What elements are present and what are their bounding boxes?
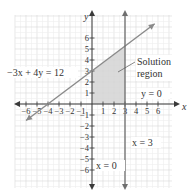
- y-axis-label: y: [83, 11, 89, 22]
- y-tick-label: −3: [80, 132, 89, 142]
- x-axis-label: x: [181, 101, 187, 112]
- line-equation-label: −3x + 4y = 12: [7, 67, 64, 78]
- y-axis-arrow-down-icon: [89, 184, 95, 190]
- x-tick-label: 2: [112, 106, 116, 116]
- y-tick-label: −1: [80, 110, 89, 120]
- x3-arrow-down-icon: [122, 184, 128, 190]
- y-equals-0-label: y = 0: [141, 88, 162, 99]
- x-equals-3-label: x = 3: [132, 137, 153, 148]
- coordinate-plane: −6−5−4−3−2−1123456−6−5−4−3−2−1123456 y x…: [0, 0, 194, 195]
- y-tick-label: 1: [85, 88, 89, 98]
- x-tick-label: −2: [65, 106, 74, 116]
- x3-arrow-up-icon: [122, 10, 128, 16]
- y-tick-label: 2: [85, 77, 89, 87]
- y-tick-label: −5: [80, 154, 89, 164]
- solution-label-line1: Solution: [137, 56, 171, 67]
- x-tick-label: 5: [145, 106, 149, 116]
- x-tick-label: −3: [54, 106, 63, 116]
- y-tick-label: −4: [80, 143, 90, 153]
- x-tick-label: 6: [156, 106, 160, 116]
- y-tick-label: −6: [80, 165, 89, 175]
- x-tick-label: 4: [134, 106, 139, 116]
- x-tick-label: 1: [101, 106, 105, 116]
- y-tick-label: 5: [85, 44, 89, 54]
- boundary-lines: [26, 10, 155, 190]
- x-axis-arrow-icon: [174, 101, 180, 107]
- x-tick-label: −4: [43, 106, 53, 116]
- x-equals-0-label: x = 0: [96, 160, 117, 171]
- y-axis-arrow-icon: [89, 10, 95, 16]
- solution-label-line2: region: [137, 68, 163, 79]
- x-tick-label: −6: [21, 106, 30, 116]
- y-tick-label: −2: [80, 121, 89, 131]
- y-tick-label: 6: [85, 33, 89, 43]
